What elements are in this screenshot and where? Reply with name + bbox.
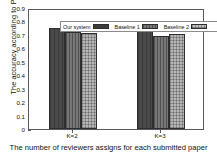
plot-area: Our systemBaseline 1Baseline 2 [28, 9, 204, 130]
chart-screenshot: The accuracy according to Precision 00.1… [0, 0, 217, 157]
x-tick-mark [72, 130, 73, 133]
legend-label: Our system [63, 24, 91, 30]
bar [81, 33, 97, 129]
legend-entry: Baseline 1 [115, 24, 158, 30]
x-axis-title: The number of reviewers assigns for each… [0, 143, 217, 152]
y-tick-label: 0.2 [0, 99, 28, 107]
bar [137, 30, 153, 129]
legend-label: Baseline 2 [164, 24, 189, 30]
legend-label: Baseline 1 [115, 24, 140, 30]
legend-entry: Baseline 2 [164, 24, 207, 30]
bar [65, 32, 81, 129]
bar [153, 36, 169, 129]
legend-entry: Our system [63, 24, 109, 30]
legend-swatch [142, 24, 158, 29]
y-tick-label: 0 [0, 126, 28, 134]
x-tick-label: K=3 [140, 132, 180, 139]
y-tick-label: 0.8 [0, 18, 28, 26]
y-tick-label: 0.3 [0, 86, 28, 94]
x-tick-label: K=2 [52, 132, 92, 139]
x-tick-mark [160, 130, 161, 133]
y-tick-label: 0.1 [0, 113, 28, 121]
bar [169, 34, 185, 129]
y-tick-label: 0.6 [0, 45, 28, 53]
y-tick-label: 0.9 [0, 5, 28, 13]
bar [49, 28, 65, 129]
y-tick-label: 0.4 [0, 72, 28, 80]
legend-swatch [93, 24, 109, 29]
y-tick-mark [28, 130, 31, 131]
y-tick-label: 0.5 [0, 59, 28, 67]
chart-legend: Our systemBaseline 1Baseline 2 [60, 21, 217, 32]
legend-swatch [191, 24, 207, 29]
y-tick-label: 0.7 [0, 32, 28, 40]
